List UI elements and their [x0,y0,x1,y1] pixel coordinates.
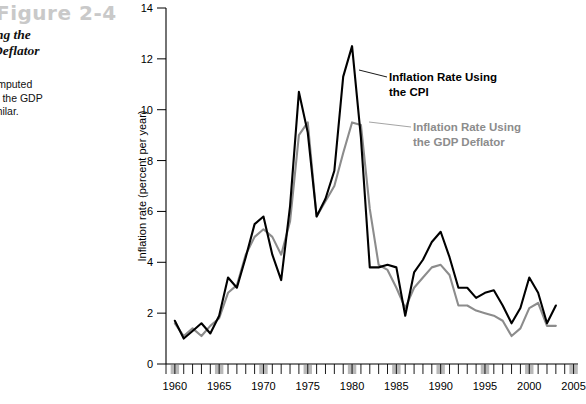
x-axis-tick-label: 1960 [163,380,187,392]
x-axis-tick-label: 2005 [561,380,585,392]
figure-title-line-3: 60 [0,58,130,74]
x-axis-tick-label: 1970 [251,380,275,392]
figure-container: Figure 2-4 n Rate, Using the f the GDP D… [0,0,586,404]
deflator-annotation-line-2: the GDP Deflator [413,136,505,148]
x-axis-tick-label: 1980 [340,380,364,392]
deflator-annotation-line-1: Inflation Rate Using [413,121,521,133]
cpi-annotation-line-2: the CPI [389,86,429,98]
figure-description: ion rates, computed er the CPI or the GD… [0,78,130,119]
y-axis-title: Inflation rate (percent per year) [136,110,148,261]
y-axis-tick-label: 14 [141,2,153,14]
figure-description-line-3: re largely similar. [0,105,130,119]
figure-title-line-1: n Rate, Using the [0,27,130,43]
figure-description-line-1: ion rates, computed [0,78,130,92]
recession-bar-group [171,365,578,374]
cpi-annotation-leader-line [359,70,387,77]
x-axis-tick-label: 1995 [473,380,497,392]
figure-title: n Rate, Using the f the GDP Deflator 60 [0,27,130,74]
y-axis-tick-label: 12 [141,53,153,65]
y-axis-tick-label: 0 [147,358,153,370]
chart-plot-area: 02468101214 1960196519701975198019851990… [132,0,586,404]
x-axis-tick-label: 1975 [296,380,320,392]
figure-number-label: Figure 2-4 [0,1,117,25]
figure-caption-block: Figure 2-4 n Rate, Using the f the GDP D… [0,0,132,404]
inflation-line-chart: 02468101214 1960196519701975198019851990… [132,0,586,404]
x-axis-tick-label: 1965 [207,380,231,392]
series-line-gdp-deflator [175,122,556,336]
figure-description-line-2: er the CPI or the GDP [0,92,130,106]
x-axis-tick-label: 1985 [384,380,408,392]
figure-title-line-2: f the GDP Deflator [0,43,130,59]
deflator-annotation-leader-line [369,122,411,127]
x-axis-tick-label: 1990 [428,380,452,392]
y-axis-tick-label: 2 [147,307,153,319]
x-axis-tick-group: 1960196519701975198019851990199520002005 [163,364,586,392]
x-axis-tick-label: 2000 [517,380,541,392]
cpi-annotation-line-1: Inflation Rate Using [389,71,497,83]
series-line-cpi [175,46,556,338]
